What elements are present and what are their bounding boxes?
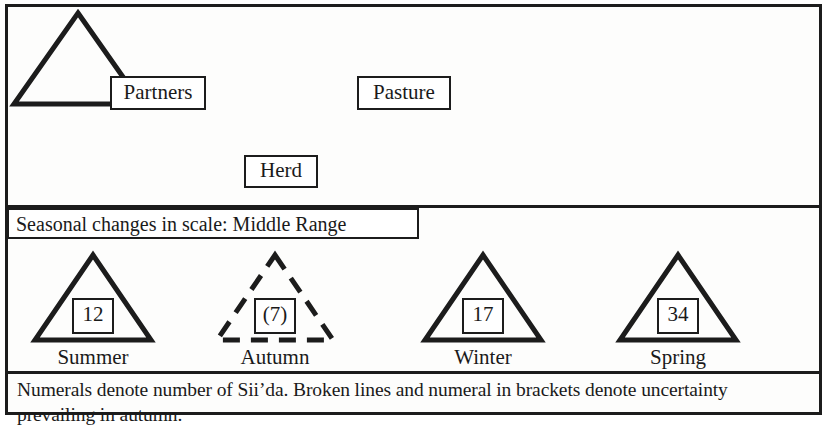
node-partners-label: Partners bbox=[124, 82, 193, 103]
footnote-text: Numerals denote number of Sii’da. Broken… bbox=[17, 378, 809, 428]
season-count-winter: 17 bbox=[473, 304, 494, 325]
figure-frame: Partners Pasture Herd Seasonal changes i… bbox=[5, 4, 822, 415]
season-label-spring: Spring bbox=[650, 346, 706, 369]
node-herd-label: Herd bbox=[260, 160, 302, 181]
season-count-summer: 12 bbox=[83, 304, 104, 325]
season-label-autumn: Autumn bbox=[241, 346, 310, 369]
season-group-winter: 17 Winter bbox=[398, 250, 568, 368]
season-count-autumn: (7) bbox=[263, 304, 288, 325]
season-group-autumn: (7) Autumn bbox=[190, 250, 360, 368]
season-count-box-spring: 34 bbox=[657, 298, 699, 334]
season-count-box-summer: 12 bbox=[72, 298, 114, 334]
season-group-summer: 12 Summer bbox=[8, 250, 178, 368]
scale-caption-label: Seasonal changes in scale: Middle Range bbox=[16, 214, 346, 234]
season-group-spring: 34 Spring bbox=[593, 250, 763, 368]
scale-caption-box: Seasonal changes in scale: Middle Range bbox=[7, 208, 419, 239]
conceptual-model-panel: Partners Pasture Herd bbox=[8, 7, 819, 205]
seasonal-panel: Seasonal changes in scale: Middle Range … bbox=[8, 208, 819, 371]
footnote-panel: Numerals denote number of Sii’da. Broken… bbox=[8, 374, 819, 412]
node-partners[interactable]: Partners bbox=[110, 76, 206, 110]
season-count-box-winter: 17 bbox=[462, 298, 504, 334]
node-pasture-label: Pasture bbox=[373, 82, 435, 103]
season-label-summer: Summer bbox=[57, 346, 128, 369]
season-label-winter: Winter bbox=[454, 346, 511, 369]
node-pasture[interactable]: Pasture bbox=[357, 76, 451, 110]
season-count-spring: 34 bbox=[668, 304, 689, 325]
node-herd[interactable]: Herd bbox=[244, 155, 318, 188]
season-count-box-autumn: (7) bbox=[254, 298, 296, 334]
